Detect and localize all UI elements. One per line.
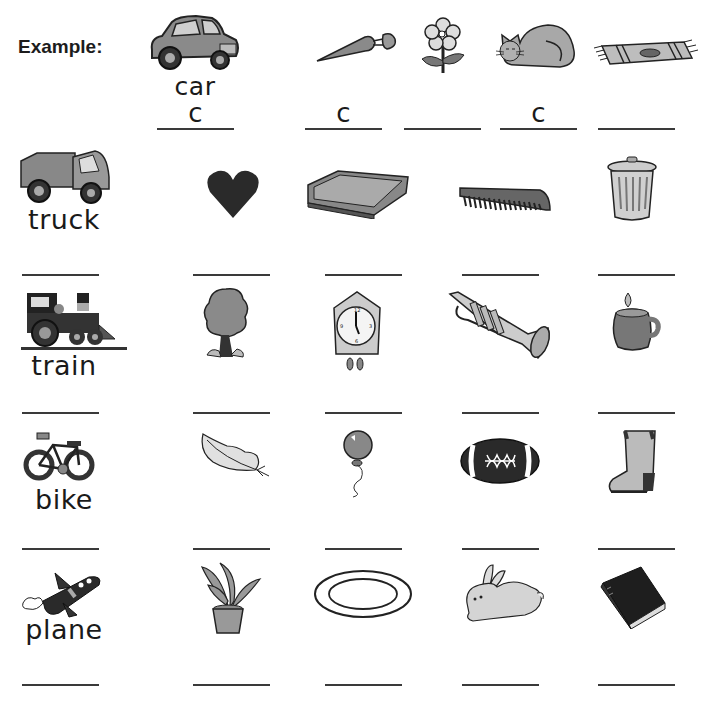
rabbit-picture [462, 562, 546, 626]
plane-answer-line[interactable] [22, 684, 99, 686]
tray-picture [303, 166, 413, 220]
plate-answer-line[interactable] [325, 684, 402, 686]
plant-answer-line[interactable] [193, 684, 270, 686]
feather-answer-line[interactable] [193, 548, 270, 550]
balloon-picture [340, 428, 376, 500]
carrot-answer: c [305, 98, 382, 128]
football-answer-line[interactable] [462, 548, 539, 550]
balloon-answer-line[interactable] [325, 548, 402, 550]
cat-answer: c [500, 98, 577, 128]
book-picture [598, 564, 668, 630]
plate-picture [312, 568, 414, 620]
svg-text:3: 3 [369, 323, 372, 329]
carrot-answer-line[interactable] [305, 128, 382, 130]
svg-text:6: 6 [355, 338, 358, 344]
comb-answer-line[interactable] [462, 274, 539, 276]
book-answer-line[interactable] [598, 684, 675, 686]
plant-picture [196, 560, 264, 636]
truck-picture [16, 146, 111, 206]
example-keyword: car [160, 72, 230, 101]
boot-picture [606, 428, 660, 496]
svg-text:9: 9 [340, 323, 343, 329]
rug-picture [590, 34, 700, 72]
tree-picture [200, 284, 252, 364]
rug-answer-line[interactable] [598, 128, 675, 130]
example-keyword-answer-line [157, 128, 234, 130]
mug-picture [612, 290, 662, 354]
car-picture [143, 10, 243, 72]
cat-answer-line[interactable] [500, 128, 577, 130]
comb-picture [456, 184, 554, 214]
boot-answer-line[interactable] [598, 548, 675, 550]
trash-can-answer-line[interactable] [598, 274, 675, 276]
train-picture [18, 288, 128, 352]
row-4-keyword: plane [14, 614, 114, 645]
rabbit-answer-line[interactable] [462, 684, 539, 686]
row-2-keyword: train [14, 350, 114, 381]
flower-picture [418, 16, 468, 76]
carrot-picture [312, 22, 397, 67]
cuckoo-clock-picture: 12369 [330, 288, 384, 372]
football-picture [458, 436, 542, 486]
cuckoo-clock-answer-line[interactable] [325, 412, 402, 414]
tree-answer-line[interactable] [193, 412, 270, 414]
trumpet-answer-line[interactable] [462, 412, 539, 414]
train-answer-line[interactable] [22, 412, 99, 414]
bike-answer-line[interactable] [22, 548, 99, 550]
heart-answer-line[interactable] [193, 274, 270, 276]
truck-answer-line[interactable] [22, 274, 99, 276]
cat-picture [496, 20, 578, 70]
feather-picture [198, 430, 272, 480]
svg-text:12: 12 [354, 307, 360, 313]
tray-answer-line[interactable] [325, 274, 402, 276]
row-1-keyword: truck [14, 204, 114, 235]
row-3-keyword: bike [14, 484, 114, 515]
mug-answer-line[interactable] [598, 412, 675, 414]
trumpet-picture [448, 288, 552, 360]
example-keyword-answer: c [157, 98, 234, 128]
example-label: Example: [18, 36, 102, 58]
flower-answer-line[interactable] [404, 128, 481, 130]
bike-picture [22, 428, 96, 482]
heart-picture [202, 166, 264, 222]
plane-picture [18, 568, 104, 620]
trash-can-picture [604, 152, 660, 222]
